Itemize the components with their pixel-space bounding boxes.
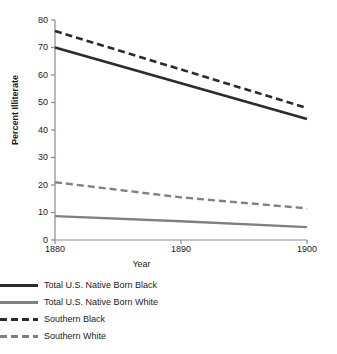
y-tick-label: 50 [38,98,48,107]
y-tick-label: 10 [38,208,48,217]
figure-container: 01020304050607080 188018901900 Year Perc… [0,0,337,354]
data-series-layer [55,31,307,227]
y-axis-title: Percent Illiterate [10,55,20,165]
x-tick-label: 1880 [35,245,75,254]
legend-item[interactable]: Total U.S. Native Born Black [0,278,337,295]
axis-spines [55,20,307,240]
series-line [55,48,307,120]
x-axis-title: Year [0,259,337,269]
y-tick-label: 20 [38,181,48,190]
plot-area [55,20,307,240]
legend-item-label: Total U.S. Native Born Black [44,280,157,291]
dashed-gray-line-icon [0,335,38,338]
chart-legend: Total U.S. Native Born BlackTotal U.S. N… [0,278,337,346]
solid-dark-line-icon [0,284,38,287]
dashed-dark-line-icon [0,318,38,321]
legend-item[interactable]: Total U.S. Native Born White [0,295,337,312]
series-line [55,182,307,208]
y-tick-label: 80 [38,16,48,25]
y-tick-label: 40 [38,126,48,135]
solid-gray-line-icon [0,301,38,304]
legend-item[interactable]: Southern White [0,329,337,346]
y-tick-label: 30 [38,153,48,162]
series-line [55,31,307,108]
x-tick-label-group: 188018901900 [0,245,337,259]
x-tick-label: 1890 [161,245,201,254]
y-tick-label: 60 [38,71,48,80]
legend-item[interactable]: Southern Black [0,312,337,329]
y-tick-label: 70 [38,43,48,52]
x-tick-label: 1900 [287,245,327,254]
legend-item-label: Southern Black [44,314,105,325]
x-axis-title-text: Year [132,259,150,269]
legend-item-label: Southern White [44,331,106,342]
series-line [55,216,307,227]
legend-item-label: Total U.S. Native Born White [44,297,158,308]
